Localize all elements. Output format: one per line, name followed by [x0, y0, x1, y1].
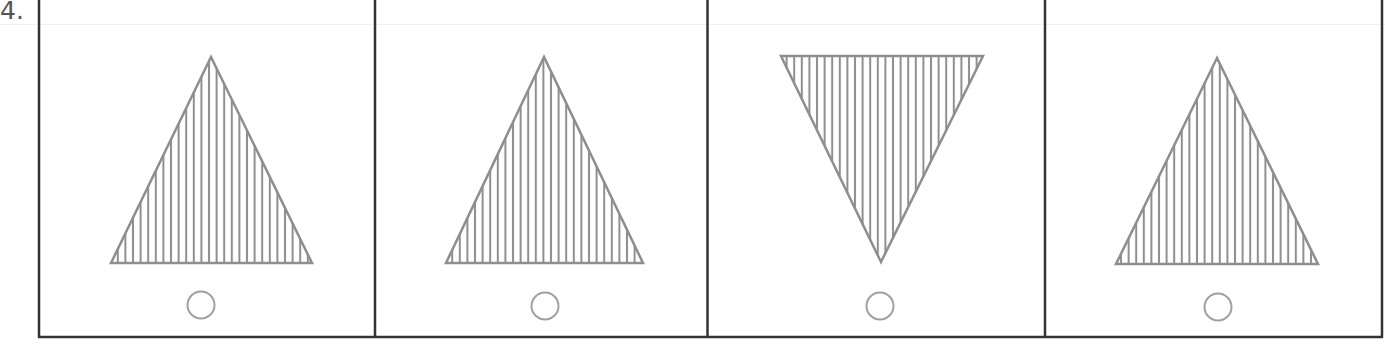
striped-triangle-up-icon [1106, 50, 1328, 272]
striped-triangle-down-icon [775, 50, 990, 270]
option-1[interactable] [100, 50, 320, 319]
option-4-radio[interactable] [1205, 294, 1232, 321]
option-2[interactable] [436, 50, 656, 320]
option-2-radio[interactable] [532, 293, 559, 320]
option-3-radio[interactable] [867, 293, 894, 320]
options-panel [0, 0, 1385, 353]
option-1-radio[interactable] [188, 292, 215, 319]
striped-triangle-up-icon [436, 50, 656, 270]
option-3[interactable] [775, 50, 990, 320]
striped-triangle-up-icon [100, 50, 320, 270]
option-4[interactable] [1106, 50, 1328, 321]
